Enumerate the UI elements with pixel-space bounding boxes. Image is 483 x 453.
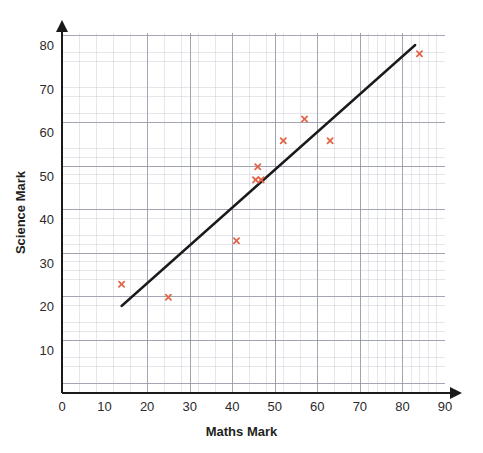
x-tick-label: 20: [140, 399, 154, 414]
y-tick-label: 10: [24, 342, 54, 357]
y-tick-label: 20: [24, 299, 54, 314]
x-tick-label: 50: [268, 399, 282, 414]
x-tick-label: 70: [353, 399, 367, 414]
x-tick-label: 30: [182, 399, 196, 414]
x-axis-title: Maths Mark: [0, 424, 483, 439]
x-tick-label: 0: [58, 399, 65, 414]
x-tick-label: 60: [310, 399, 324, 414]
x-tick-label: 80: [395, 399, 409, 414]
y-axis-title: Science Mark: [13, 153, 28, 273]
y-tick-label: 80: [24, 38, 54, 53]
plot-grid-area: [62, 33, 445, 393]
x-tick-label: 10: [97, 399, 111, 414]
scatter-chart: 1020304050607080 0102030405060708090 Mat…: [0, 0, 483, 453]
y-tick-label: 60: [24, 125, 54, 140]
y-tick-label: 40: [24, 212, 54, 227]
y-tick-label: 30: [24, 255, 54, 270]
y-tick-label: 70: [24, 81, 54, 96]
x-tick-label: 40: [225, 399, 239, 414]
x-tick-label: 90: [438, 399, 452, 414]
y-tick-label: 50: [24, 168, 54, 183]
